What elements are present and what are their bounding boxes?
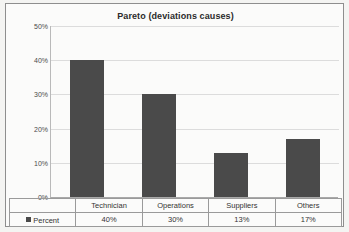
table-row-values: Percent 40% 30% 13% 17%	[10, 213, 342, 227]
chart-title: Pareto (deviations causes)	[6, 11, 345, 21]
table-header-operations: Operations	[142, 199, 208, 213]
table-header-suppliers: Suppliers	[209, 199, 275, 213]
table-corner-cell	[10, 199, 76, 213]
bar-suppliers[interactable]	[214, 153, 247, 197]
bar-operations[interactable]	[142, 94, 175, 197]
table-value-suppliers: 13%	[209, 213, 275, 227]
legend-swatch-icon	[26, 217, 31, 222]
y-tick-label-10: 10%	[10, 159, 48, 166]
bar-slot-suppliers	[195, 26, 267, 197]
table-value-operations: 30%	[142, 213, 208, 227]
y-tick-label-40: 40%	[10, 57, 48, 64]
table-value-technician: 40%	[76, 213, 142, 227]
bar-others[interactable]	[286, 139, 319, 197]
data-table: Technician Operations Suppliers Others P…	[9, 198, 342, 227]
y-tick-label-20: 20%	[10, 125, 48, 132]
table-header-others: Others	[275, 199, 341, 213]
y-tick-label-50: 50%	[10, 23, 48, 30]
plot-area	[50, 26, 338, 198]
table-header-technician: Technician	[76, 199, 142, 213]
y-axis: 50% 40% 30% 20% 10% 0%	[10, 26, 48, 198]
bar-slot-others	[267, 26, 339, 197]
bar-slot-technician	[51, 26, 123, 197]
bar-slot-operations	[123, 26, 195, 197]
legend-label: Percent	[33, 215, 59, 224]
y-tick-label-30: 30%	[10, 91, 48, 98]
table-value-others: 17%	[275, 213, 341, 227]
table-row-categories: Technician Operations Suppliers Others	[10, 199, 342, 213]
chart-image: Pareto (deviations causes) 50% 40% 30% 2…	[0, 0, 349, 232]
plot-wrapper: 50% 40% 30% 20% 10% 0%	[50, 26, 338, 198]
bar-series	[51, 26, 339, 197]
bar-technician[interactable]	[70, 60, 103, 197]
legend-cell: Percent	[10, 213, 76, 227]
chart-frame: Pareto (deviations causes) 50% 40% 30% 2…	[5, 3, 344, 227]
